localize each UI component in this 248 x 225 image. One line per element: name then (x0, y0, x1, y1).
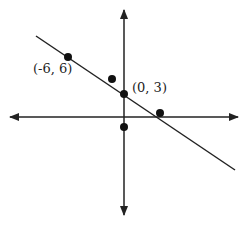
point-marker (64, 53, 72, 61)
point-marker (120, 90, 128, 98)
point-marker (156, 109, 164, 117)
diagram-canvas: (-6, 6) (0, 3) (0, 0, 248, 225)
point-label-neg6-6: (-6, 6) (33, 61, 72, 76)
point-label-0-3: (0, 3) (132, 80, 167, 95)
point-marker (120, 123, 128, 131)
point-marker (108, 75, 116, 83)
coordinate-plane-diagram: (-6, 6) (0, 3) (0, 0, 248, 225)
